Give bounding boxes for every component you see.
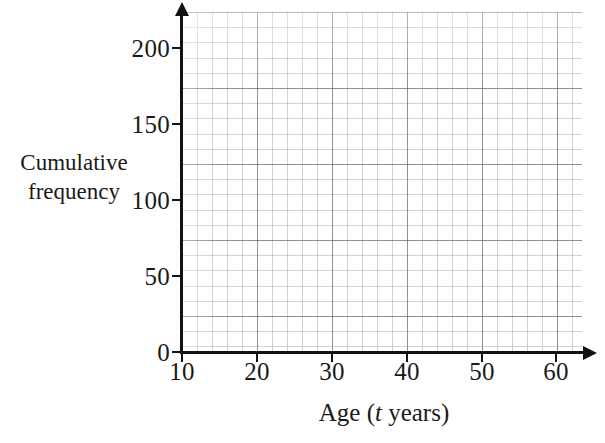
y-tick-label-150: 150 (108, 112, 170, 137)
x-tick-label-20: 20 (222, 359, 292, 385)
y-axis-arrowhead-icon (175, 2, 189, 16)
y-axis-line (180, 14, 183, 353)
x-tick-label-50: 50 (447, 359, 517, 385)
x-axis-title: Age (t years) (180, 398, 588, 428)
y-tick-200 (172, 47, 183, 49)
x-axis-line (180, 351, 585, 354)
x-tick-label-40: 40 (372, 359, 442, 385)
x-axis-title-variable: t (375, 399, 382, 426)
x-tick-label-10: 10 (147, 359, 217, 385)
y-tick-100 (172, 199, 183, 201)
x-tick-label-60: 60 (521, 359, 591, 385)
x-axis-title-suffix: years) (382, 399, 449, 426)
y-axis-title-line-2: frequency (4, 177, 144, 206)
y-tick-50 (172, 275, 183, 277)
y-axis-title: Cumulative frequency (4, 148, 144, 206)
y-tick-label-50: 50 (108, 264, 170, 289)
graph-paper-grid (182, 12, 582, 352)
y-axis-title-line-1: Cumulative (20, 150, 127, 175)
y-tick-150 (172, 123, 183, 125)
y-tick-label-200: 200 (108, 36, 170, 61)
x-axis-title-prefix: Age ( (319, 399, 375, 426)
cumulative-frequency-graph: 0 50 100 150 200 10 20 30 40 50 60 Cumul… (0, 0, 605, 443)
x-tick-label-30: 30 (297, 359, 367, 385)
x-axis-arrowhead-icon (583, 346, 597, 360)
